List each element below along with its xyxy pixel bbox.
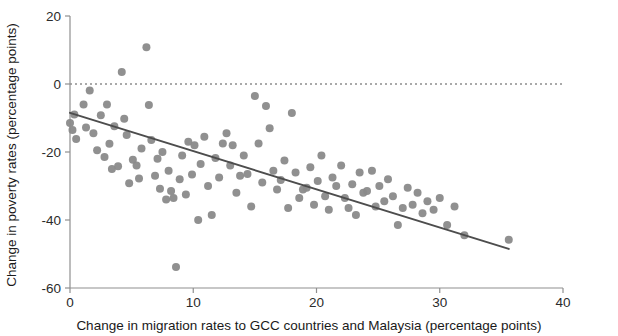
- data-point: [172, 263, 180, 271]
- data-point: [288, 109, 296, 117]
- data-point: [68, 126, 76, 134]
- data-point: [368, 167, 376, 175]
- data-point: [162, 196, 170, 204]
- data-point: [423, 197, 431, 205]
- data-point: [197, 160, 205, 168]
- data-point: [262, 102, 270, 110]
- data-point: [103, 100, 111, 108]
- data-point: [125, 179, 133, 187]
- x-axis-title: Change in migration rates to GCC countri…: [76, 318, 541, 333]
- data-point: [295, 194, 303, 202]
- data-point: [219, 140, 227, 148]
- data-point: [414, 189, 422, 197]
- data-point: [142, 43, 150, 51]
- tick-labels-group: 200-20-40-60010203040: [41, 9, 570, 311]
- x-tick-label: 10: [186, 295, 201, 310]
- data-point: [251, 92, 259, 100]
- chart-canvas: 200-20-40-60010203040 Change in migratio…: [0, 0, 618, 336]
- data-point: [194, 216, 202, 224]
- data-point: [167, 187, 175, 195]
- x-tick-label: 40: [555, 295, 570, 310]
- data-point: [137, 145, 145, 153]
- data-point: [66, 119, 74, 127]
- data-point: [120, 115, 128, 123]
- data-point: [399, 204, 407, 212]
- data-point: [176, 175, 184, 183]
- data-point: [436, 194, 444, 202]
- x-tick-label: 20: [309, 295, 324, 310]
- data-point: [317, 151, 325, 159]
- data-point: [375, 182, 383, 190]
- data-point: [266, 124, 274, 132]
- data-point: [314, 177, 322, 185]
- data-point: [352, 211, 360, 219]
- data-point: [380, 197, 388, 205]
- data-point: [404, 184, 412, 192]
- data-point: [158, 148, 166, 156]
- axis-ticks: [65, 16, 563, 293]
- data-point: [273, 185, 281, 193]
- data-point: [236, 172, 244, 180]
- data-point: [306, 163, 314, 171]
- data-point: [82, 124, 90, 132]
- data-point: [243, 170, 251, 178]
- data-point: [389, 192, 397, 200]
- data-point: [255, 140, 263, 148]
- data-point: [229, 141, 237, 149]
- data-point: [356, 168, 364, 176]
- data-point: [101, 153, 109, 161]
- data-point: [247, 202, 255, 210]
- y-tick-label: -60: [41, 281, 61, 296]
- data-point: [86, 86, 94, 94]
- data-point: [200, 133, 208, 141]
- scatter-plot-figure: 200-20-40-60010203040 Change in migratio…: [0, 0, 618, 336]
- data-point: [419, 209, 427, 217]
- data-point: [188, 170, 196, 178]
- data-point: [208, 211, 216, 219]
- data-point: [105, 140, 113, 148]
- y-tick-label: -20: [41, 145, 61, 160]
- y-tick-label: 0: [53, 77, 61, 92]
- data-point: [325, 206, 333, 214]
- data-point: [240, 151, 248, 159]
- data-point: [89, 129, 97, 137]
- data-point: [72, 135, 80, 143]
- data-point: [232, 189, 240, 197]
- data-point: [145, 101, 153, 109]
- data-point: [329, 174, 337, 182]
- data-point: [430, 206, 438, 214]
- data-point: [345, 204, 353, 212]
- data-point: [215, 174, 223, 182]
- data-points-group: [66, 43, 513, 271]
- data-point: [133, 162, 141, 170]
- data-point: [451, 202, 459, 210]
- data-point: [154, 155, 162, 163]
- data-point: [223, 129, 231, 137]
- y-tick-label: 20: [46, 9, 61, 24]
- axis-lines: [70, 16, 563, 288]
- data-point: [178, 151, 186, 159]
- data-point: [93, 146, 101, 154]
- data-point: [114, 162, 122, 170]
- data-point: [118, 68, 126, 76]
- data-point: [505, 236, 513, 244]
- data-point: [332, 182, 340, 190]
- data-point: [190, 141, 198, 149]
- data-point: [135, 175, 143, 183]
- data-point: [384, 175, 392, 183]
- data-point: [280, 157, 288, 165]
- data-point: [337, 162, 345, 170]
- data-point: [348, 180, 356, 188]
- data-point: [97, 111, 105, 119]
- data-point: [310, 201, 318, 209]
- data-point: [292, 168, 300, 176]
- data-point: [165, 167, 173, 175]
- data-point: [409, 201, 417, 209]
- data-point: [284, 204, 292, 212]
- data-point: [363, 187, 371, 195]
- data-point: [394, 221, 402, 229]
- data-point: [182, 191, 190, 199]
- data-point: [80, 100, 88, 108]
- data-point: [151, 172, 159, 180]
- data-point: [258, 179, 266, 187]
